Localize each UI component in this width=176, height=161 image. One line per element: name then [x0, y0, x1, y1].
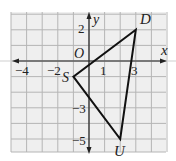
coordinate-plane-svg: x y O −4 −2 1 3 2 −3 −5 D S U [0, 0, 176, 161]
vertex-label-S: S [62, 70, 69, 85]
x-axis-label: x [160, 42, 168, 58]
y-axis-label: y [91, 12, 100, 27]
y-tick-label-neg5: −5 [72, 133, 86, 148]
x-tick-label-3: 3 [131, 63, 138, 78]
coordinate-plane-figure: x y O −4 −2 1 3 2 −3 −5 D S U [0, 0, 176, 161]
x-tick-label-neg4: −4 [15, 63, 29, 78]
y-tick-label-neg3: −3 [72, 101, 86, 116]
vertex-label-U: U [114, 143, 126, 159]
vertex-label-D: D [139, 11, 151, 27]
y-tick-label-2: 2 [78, 21, 85, 36]
x-tick-label-1: 1 [100, 63, 107, 78]
origin-label: O [74, 46, 84, 61]
x-tick-label-neg2: −2 [47, 63, 61, 78]
